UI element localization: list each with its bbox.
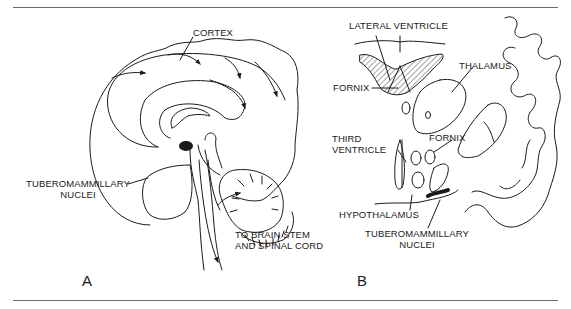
label-tuberomammillary-nuclei-b: TUBEROMAMMILLARY NUCLEI [352, 228, 482, 250]
label-fornix-top: FORNIX [333, 82, 370, 93]
label-tmn-b-line1: TUBEROMAMMILLARY [352, 228, 482, 239]
label-third-ventricle-line1: THIRD [332, 133, 386, 144]
brain-diagram [0, 0, 571, 309]
label-brainstem-line2: AND SPINAL CORD [235, 240, 323, 251]
label-hypothalamus: HYPOTHALAMUS [339, 209, 419, 220]
label-tuberomammillary-nuclei-a: TUBEROMAMMILLARY NUCLEI [18, 178, 138, 200]
label-to-brain-stem: TO BRAIN STEM AND SPINAL CORD [235, 229, 323, 251]
label-thalamus: THALAMUS [459, 60, 512, 71]
panel-b-coronal-brain [355, 17, 560, 228]
panel-letter-a: A [82, 272, 92, 289]
panel-a-tmn-dot [179, 141, 193, 151]
label-fornix-mid: FORNIX [429, 132, 466, 143]
label-tmn-b-line2: NUCLEI [352, 239, 482, 250]
label-tmn-a-line2: NUCLEI [18, 189, 138, 200]
label-lateral-ventricle: LATERAL VENTRICLE [349, 20, 448, 31]
label-brainstem-line1: TO BRAIN STEM [235, 229, 323, 240]
label-third-ventricle-line2: VENTRICLE [332, 144, 386, 155]
label-tmn-a-line1: TUBEROMAMMILLARY [18, 178, 138, 189]
label-cortex: CORTEX [193, 27, 233, 38]
panel-letter-b: B [357, 272, 367, 289]
label-third-ventricle: THIRD VENTRICLE [332, 133, 386, 155]
